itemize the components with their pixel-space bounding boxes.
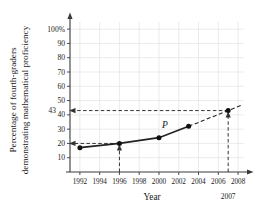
y-tick-label: 40 [57,110,65,119]
data-point [186,124,191,129]
x-axis-title: Year [143,192,161,202]
curve-label: P [161,120,168,130]
chart-svg: 102030405060708090100% 19921994199619982… [0,0,260,210]
annotation-year-2007: 2007 [221,192,236,201]
x-tick-label: 1992 [73,178,88,186]
data-point [117,141,122,146]
x-tick-label: 1998 [132,178,147,186]
y-tick-label: 10 [57,153,65,162]
x-tick-label: 2004 [191,178,206,186]
y-tick-label: 20 [57,139,65,148]
y-axis-title: Percentage of fourth-graders demonstrati… [8,25,30,174]
chart-gridlines [70,22,244,172]
x-tick-label: 2000 [152,178,167,186]
x-axis-arrow-icon [247,169,254,174]
x-axis-ticks: 199219941996199820002002200420062008 [73,172,246,186]
y-tick-label: 70 [57,68,65,77]
x-tick-label: 2008 [231,178,246,186]
y-axis-title-line2: demonstrating mathematical proficiency [20,25,30,174]
chart-guides [69,108,231,172]
y-tick-label: 50 [57,96,65,105]
x-tick-label: 2006 [211,178,226,186]
data-curve-solid [80,126,189,147]
y-axis-ticks: 102030405060708090100% [47,25,70,163]
y-tick-label: 100% [47,25,65,34]
chart-figure: 102030405060708090100% 19921994199619982… [0,0,260,210]
y-tick-label: 60 [57,82,65,91]
y-tick-label: 90 [57,39,65,48]
data-point [77,145,82,150]
y-tick-label: 80 [57,53,65,62]
y-axis-title-line1: Percentage of fourth-graders [8,47,18,153]
data-curve-dashed [189,105,242,126]
x-tick-label: 2002 [172,178,187,186]
x-tick-label: 1994 [92,178,107,186]
annotation-value-43: 43 [49,106,57,115]
data-point [156,135,161,140]
y-axis-arrow-icon [67,13,72,20]
y-tick-label: 30 [57,125,65,134]
x-tick-label: 1996 [112,178,127,186]
data-point [226,108,231,113]
